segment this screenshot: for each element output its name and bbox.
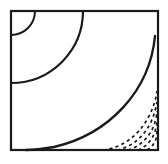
diagram-container: Geometric diagram of concentric arcs wit… — [0, 0, 168, 164]
diagram-canvas: Geometric diagram of concentric arcs wit… — [0, 0, 168, 164]
